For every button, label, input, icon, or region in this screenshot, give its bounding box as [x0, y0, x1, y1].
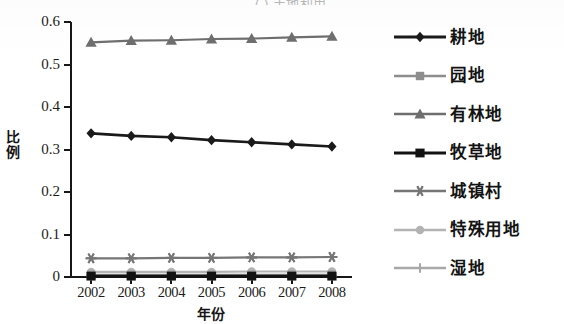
legend-label: 湿地: [450, 260, 485, 277]
legend-label: 城镇村: [450, 183, 503, 200]
legend-label: 牧草地: [450, 144, 503, 161]
asterisk-marker: [392, 180, 448, 202]
y-axis-title: 比例: [2, 130, 22, 160]
series-diamond: [86, 128, 336, 152]
legend-item-7[interactable]: 湿地: [392, 255, 485, 281]
legend-item-2[interactable]: 园地: [392, 63, 485, 89]
diamond-marker: [392, 26, 448, 48]
legend-label: 园地: [450, 67, 485, 84]
series-plot: [0, 0, 380, 324]
plus-marker: [392, 257, 448, 279]
legend-label: 有林地: [450, 106, 503, 123]
legend-label: 特殊用地: [450, 221, 520, 238]
legend-item-1[interactable]: 耕地: [392, 24, 485, 50]
series-filled-square: [86, 272, 336, 281]
circle-marker: [392, 219, 448, 241]
series-triangle: [85, 31, 337, 47]
legend-item-6[interactable]: 特殊用地: [392, 217, 520, 243]
land-use-proportion-figure: ( ) 土地利用 00.10.20.30.40.50.6 20022003200…: [0, 0, 564, 324]
legend-item-3[interactable]: 有林地: [392, 101, 503, 127]
legend-item-4[interactable]: 牧草地: [392, 140, 503, 166]
x-axis-title: 年份: [70, 303, 352, 323]
legend-label: 耕地: [450, 29, 485, 46]
square-marker: [392, 65, 448, 87]
plot-area: 00.10.20.30.40.50.6 20022003200420052006…: [0, 0, 380, 324]
series-asterisk: [86, 252, 338, 263]
triangle-marker: [392, 103, 448, 125]
legend-item-5[interactable]: 城镇村: [392, 178, 503, 204]
chart-legend: 耕地园地有林地牧草地城镇村特殊用地湿地: [392, 24, 564, 296]
filled-square-marker: [392, 142, 448, 164]
